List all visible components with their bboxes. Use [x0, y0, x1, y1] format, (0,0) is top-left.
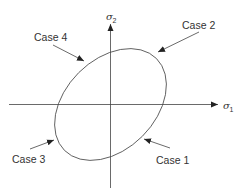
- case-3-label: Case 3: [12, 153, 45, 165]
- case-2-arrow: [158, 32, 199, 52]
- sigma2-subscript: 2: [113, 17, 117, 24]
- case-2-label: Case 2: [182, 19, 215, 31]
- case-1-label: Case 1: [156, 154, 189, 166]
- case-4-label: Case 4: [34, 31, 67, 43]
- case-3-arrow: [30, 140, 54, 149]
- stress-ellipse-diagram: σ 2 σ 1 Case 4 Case 2 Case 3 Case 1: [0, 0, 249, 192]
- case-4-arrow: [53, 45, 84, 61]
- case-1-arrow: [144, 139, 170, 148]
- sigma1-subscript: 1: [230, 106, 234, 113]
